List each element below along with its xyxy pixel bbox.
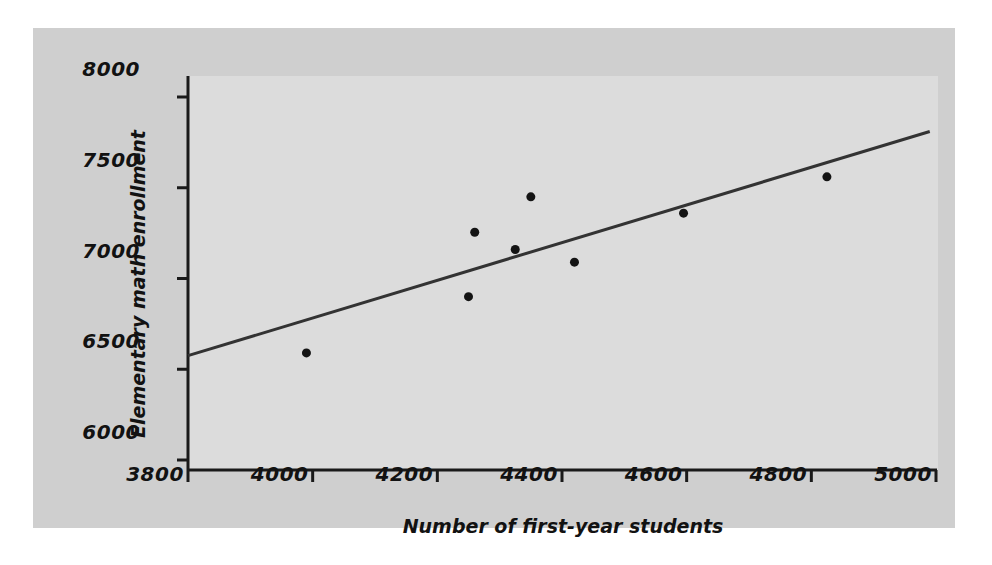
x-tick-label-4000: 4000 bbox=[251, 462, 309, 486]
y-tick-label-6500: 6500 bbox=[35, 329, 140, 353]
x-tick-label-3800: 3800 bbox=[126, 462, 184, 486]
data-point-3 bbox=[511, 245, 520, 254]
x-tick-label-4800: 4800 bbox=[749, 462, 807, 486]
data-point-0 bbox=[302, 348, 311, 357]
figure-mat: Elementary math enrollment Number of fir… bbox=[33, 28, 955, 528]
data-point-4 bbox=[526, 192, 535, 201]
figure-container: Elementary math enrollment Number of fir… bbox=[0, 0, 992, 565]
x-tick-label-4400: 4400 bbox=[500, 462, 558, 486]
data-point-7 bbox=[822, 172, 831, 181]
data-point-1 bbox=[464, 292, 473, 301]
data-point-6 bbox=[679, 209, 688, 218]
y-tick-label-6000: 6000 bbox=[35, 420, 140, 444]
x-tick-label-4600: 4600 bbox=[625, 462, 683, 486]
x-axis-label: Number of first-year students bbox=[188, 515, 938, 537]
y-tick-label-7500: 7500 bbox=[35, 148, 140, 172]
y-tick-label-8000: 8000 bbox=[35, 57, 140, 81]
x-tick-label-4200: 4200 bbox=[375, 462, 433, 486]
y-tick-label-7000: 7000 bbox=[35, 239, 140, 263]
x-tick-label-5000: 5000 bbox=[874, 462, 932, 486]
data-point-2 bbox=[470, 228, 479, 237]
data-point-5 bbox=[570, 258, 579, 267]
trend-line bbox=[188, 131, 930, 355]
